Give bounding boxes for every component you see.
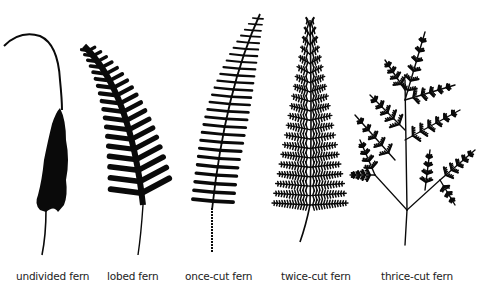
thrice-cut-upper-right-lobule bbox=[416, 100, 418, 101]
twice-cut-pinnule bbox=[317, 89, 318, 93]
twice-cut-pinnule bbox=[306, 62, 307, 67]
twice-cut-pinnule bbox=[329, 194, 330, 198]
twice-cut-pinnule bbox=[315, 100, 316, 105]
thrice-cut-upper-right-lobule bbox=[424, 97, 426, 98]
twice-cut-pinnule bbox=[325, 107, 326, 110]
thrice-cut-upper-right-lobule bbox=[414, 95, 416, 96]
once-cut-left-pinna bbox=[196, 173, 216, 175]
twice-cut-pinnule bbox=[292, 166, 293, 170]
thrice-cut-apex-lobule bbox=[415, 77, 416, 79]
once-cut-fern-silhouette bbox=[193, 14, 263, 252]
twice-cut-pinnule bbox=[297, 88, 298, 91]
twice-cut-pinnule bbox=[289, 185, 290, 188]
thrice-cut-upper-right-lobule bbox=[448, 89, 450, 90]
twice-cut-pinnule bbox=[292, 136, 293, 139]
thrice-cut-base-left-up-lobule bbox=[369, 166, 370, 168]
twice-cut-pinnule bbox=[304, 61, 305, 65]
twice-cut-pinnule bbox=[295, 117, 296, 120]
twice-cut-pinnule bbox=[332, 204, 333, 208]
once-cut-right-pinna bbox=[235, 82, 253, 83]
thrice-cut-mid-right-lobule bbox=[447, 119, 449, 120]
twice-cut-pinnule bbox=[315, 51, 316, 55]
twice-cut-pinnule bbox=[329, 175, 330, 178]
once-cut-left-pinna bbox=[218, 81, 236, 83]
twice-cut-pinnule bbox=[297, 77, 298, 80]
label-undivided-fern: undivided fern bbox=[16, 270, 89, 282]
twice-cut-pinnule bbox=[285, 145, 286, 147]
twice-cut-pinnule bbox=[292, 106, 293, 108]
lobed-left-lobe bbox=[96, 79, 110, 81]
thrice-cut-base-left-up-lobule bbox=[364, 143, 365, 145]
twice-cut-pinnule bbox=[338, 194, 339, 197]
thrice-cut-apex-lobule bbox=[417, 47, 418, 49]
twice-cut-pinnule bbox=[340, 203, 341, 206]
thrice-cut-base-right-down-lobule bbox=[453, 199, 454, 201]
thrice-cut-apex-lobule bbox=[413, 78, 414, 80]
twice-cut-pinnule bbox=[318, 99, 319, 103]
twice-cut-pinnule bbox=[285, 204, 286, 207]
twice-cut-pinnule bbox=[318, 138, 319, 142]
lobed-left-lobe bbox=[108, 136, 132, 139]
twice-cut-pinnule bbox=[316, 138, 317, 143]
once-cut-left-pinna bbox=[223, 67, 239, 69]
twice-cut-pinnule bbox=[298, 166, 299, 170]
twice-cut-pinnule bbox=[300, 147, 301, 151]
twice-cut-pinnule bbox=[293, 117, 294, 120]
twice-cut-pinnule bbox=[289, 165, 290, 168]
once-cut-right-pinna bbox=[241, 62, 256, 63]
twice-cut-pinnule bbox=[290, 116, 291, 118]
thrice-cut-mid-right-lobule bbox=[415, 136, 417, 137]
twice-cut-pinnule bbox=[332, 194, 333, 197]
twice-cut-pinnule bbox=[336, 184, 337, 187]
twice-cut-pinnule bbox=[328, 126, 329, 129]
twice-cut-pinnule bbox=[321, 137, 322, 141]
twice-cut-pinnule bbox=[340, 174, 341, 176]
once-cut-left-pinna bbox=[253, 18, 258, 19]
twice-cut-pinnule bbox=[319, 58, 320, 61]
thrice-cut-apex-lobule bbox=[403, 83, 404, 85]
twice-cut-pinnule bbox=[305, 41, 306, 45]
twice-cut-pinnule bbox=[298, 157, 299, 161]
twice-cut-pinnule bbox=[324, 137, 325, 141]
twice-cut-pinnule bbox=[288, 126, 289, 128]
twice-cut-pinnule bbox=[316, 39, 317, 42]
twice-cut-pinnule bbox=[341, 194, 342, 197]
label-twice-cut-fern: twice-cut fern bbox=[281, 270, 351, 282]
lobed-left-lobe bbox=[93, 72, 106, 74]
once-cut-left-pinna bbox=[245, 30, 253, 31]
twice-cut-pinnule bbox=[319, 89, 320, 93]
twice-cut-pinnule bbox=[296, 156, 297, 160]
twice-cut-pinnule bbox=[303, 100, 304, 105]
twice-cut-pinnule bbox=[304, 90, 305, 95]
twice-cut-pinnule bbox=[307, 43, 308, 48]
thrice-cut-apex-lobule bbox=[413, 56, 414, 58]
twice-cut-pinnule bbox=[342, 184, 343, 186]
twice-cut-pinnule bbox=[298, 147, 299, 151]
twice-cut-pinnule bbox=[321, 118, 322, 122]
once-cut-left-pinna bbox=[230, 54, 244, 55]
twice-cut-pinnule bbox=[326, 127, 327, 130]
twice-cut-pinnule bbox=[297, 137, 298, 141]
thrice-cut-mid-right-lobule bbox=[444, 114, 446, 115]
lobed-fern-silhouette bbox=[81, 46, 169, 255]
twice-cut-pinnule bbox=[300, 195, 301, 200]
twice-cut-pinnule bbox=[332, 175, 333, 178]
thrice-cut-apex-lobule bbox=[417, 68, 418, 70]
once-cut-left-pinna bbox=[249, 24, 256, 25]
once-cut-right-pinna bbox=[220, 150, 241, 151]
twice-cut-pinnule bbox=[321, 204, 322, 209]
once-cut-right-pinna bbox=[222, 142, 243, 143]
twice-cut-pinnule bbox=[318, 205, 319, 210]
twice-cut-pinnule bbox=[296, 108, 297, 111]
twice-cut-pinnule bbox=[300, 166, 301, 171]
twice-cut-pinnule bbox=[279, 194, 280, 197]
twice-cut-pinnule bbox=[322, 88, 323, 91]
thrice-cut-apex-lobule bbox=[412, 87, 413, 89]
twice-cut-pinnule bbox=[318, 147, 319, 151]
twice-cut-pinnule bbox=[298, 195, 299, 199]
thrice-cut-base-left-up-lobule bbox=[363, 158, 364, 160]
once-cut-left-pinna bbox=[200, 148, 221, 150]
thrice-cut-mid-right-lobule bbox=[421, 126, 423, 127]
thrice-cut-upper-right-lobule bbox=[423, 96, 425, 97]
twice-cut-pinnule bbox=[283, 184, 284, 187]
